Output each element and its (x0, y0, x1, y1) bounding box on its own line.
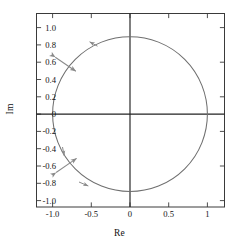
double-arrow-upper-left (55, 57, 76, 71)
perturbation-arrows (55, 57, 76, 172)
x-tick-label-4: 0.5 (149, 209, 189, 219)
y-tick-label-4: 0.4 (16, 75, 56, 85)
y-tick-label-1: 1.0 (16, 23, 56, 33)
double-arrow-lower-left (56, 158, 77, 172)
x-tick-label-5: 1 (187, 209, 227, 219)
y-tick-label-6: 0 (16, 109, 56, 119)
y-tick-label-3: 0.6 (16, 57, 56, 67)
x-tick-label-2: -0.5 (71, 209, 111, 219)
y-tick-label-7: -0.2 (16, 126, 56, 136)
y-tick-label-2: 0.8 (16, 40, 56, 50)
axis-lines (37, 14, 225, 208)
x-tick-label-3: 0 (110, 209, 150, 219)
figure-panel: 1.0 0.8 0.6 0.4 0.2 0 -0.2 -0.4 -0.6 -0.… (0, 0, 239, 247)
y-tick-label-5: 0.2 (16, 92, 56, 102)
x-axis-title: Re (0, 228, 239, 238)
y-axis-title: Im (5, 102, 15, 116)
y-tick-label-11: -1.0 (16, 196, 56, 206)
x-tick-label-1: -1.0 (33, 209, 73, 219)
y-tick-label-8: -0.4 (16, 144, 56, 154)
direction-arrow-lower (79, 182, 88, 186)
y-tick-label-9: -0.6 (16, 161, 56, 171)
y-tick-label-10: -0.8 (16, 178, 56, 188)
